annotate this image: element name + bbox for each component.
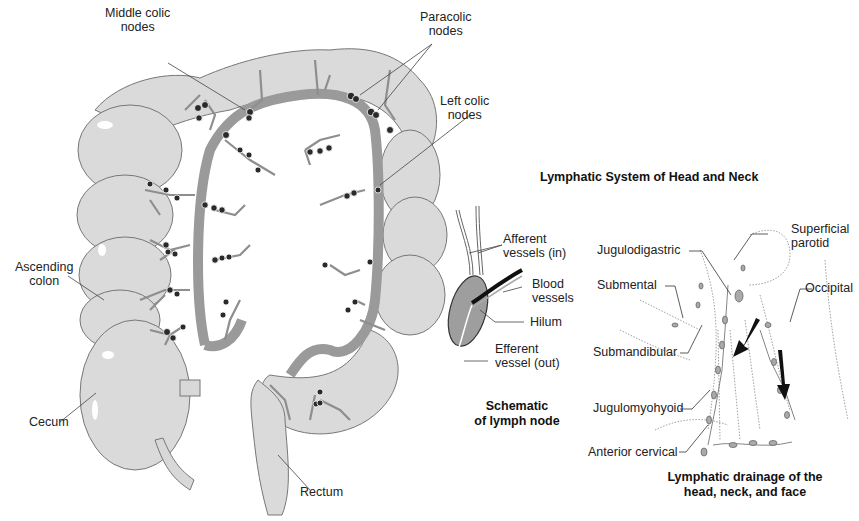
label-ascending-colon: Ascending colon (15, 260, 73, 288)
caption-line: Schematic (467, 399, 567, 414)
lymph-node-schematic-caption: Schematic of lymph node (467, 399, 567, 429)
label-line: vessels (532, 291, 574, 305)
label-cecum: Cecum (29, 415, 69, 429)
label-superficial-parotid: Superficial parotid (791, 222, 849, 250)
label-jugulodigastric: Jugulodigastric (597, 243, 680, 257)
label-line: Ascending (15, 260, 73, 274)
label-line: Paracolic (420, 10, 471, 24)
label-line: Blood (532, 277, 574, 291)
label-line: nodes (420, 24, 471, 38)
label-line: vessels (in) (503, 246, 566, 260)
label-line: colon (15, 274, 73, 288)
label-line: nodes (105, 20, 170, 34)
label-line: vessel (out) (495, 356, 560, 370)
label-submandibular: Submandibular (593, 345, 677, 359)
label-jugulomyohyoid: Jugulomyohyoid (593, 401, 683, 415)
caption-line: Lymphatic drainage of the (655, 470, 835, 485)
colon-illustration (77, 49, 447, 515)
label-line: Left colic (440, 94, 489, 108)
head-neck-caption: Lymphatic drainage of the head, neck, an… (655, 470, 835, 500)
head-neck-title: Lymphatic System of Head and Neck (540, 170, 758, 184)
label-paracolic-nodes: Paracolic nodes (420, 10, 471, 38)
label-left-colic-nodes: Left colic nodes (440, 94, 489, 122)
label-hilum: Hilum (530, 315, 562, 329)
label-line: Efferent (495, 342, 560, 356)
label-rectum: Rectum (300, 485, 343, 499)
label-line: parotid (791, 236, 849, 250)
label-line: Middle colic (105, 6, 170, 20)
head-neck-lymph-chain (672, 265, 795, 456)
label-middle-colic-nodes: Middle colic nodes (105, 6, 170, 34)
drainage-arrows (733, 318, 790, 400)
diagram-artwork (0, 0, 859, 521)
label-blood-vessels: Blood vessels (532, 277, 574, 305)
label-line: Afferent (503, 232, 566, 246)
lymph-node-schematic-drawing (441, 206, 524, 361)
label-submental: Submental (597, 278, 657, 292)
label-anterior-cervical: Anterior cervical (588, 445, 678, 459)
label-afferent-vessels: Afferent vessels (in) (503, 232, 566, 260)
label-occipital: Occipital (805, 281, 853, 295)
caption-line: head, neck, and face (655, 485, 835, 500)
label-line: Superficial (791, 222, 849, 236)
caption-line: of lymph node (467, 414, 567, 429)
label-efferent-vessel: Efferent vessel (out) (495, 342, 560, 370)
label-line: nodes (440, 108, 489, 122)
